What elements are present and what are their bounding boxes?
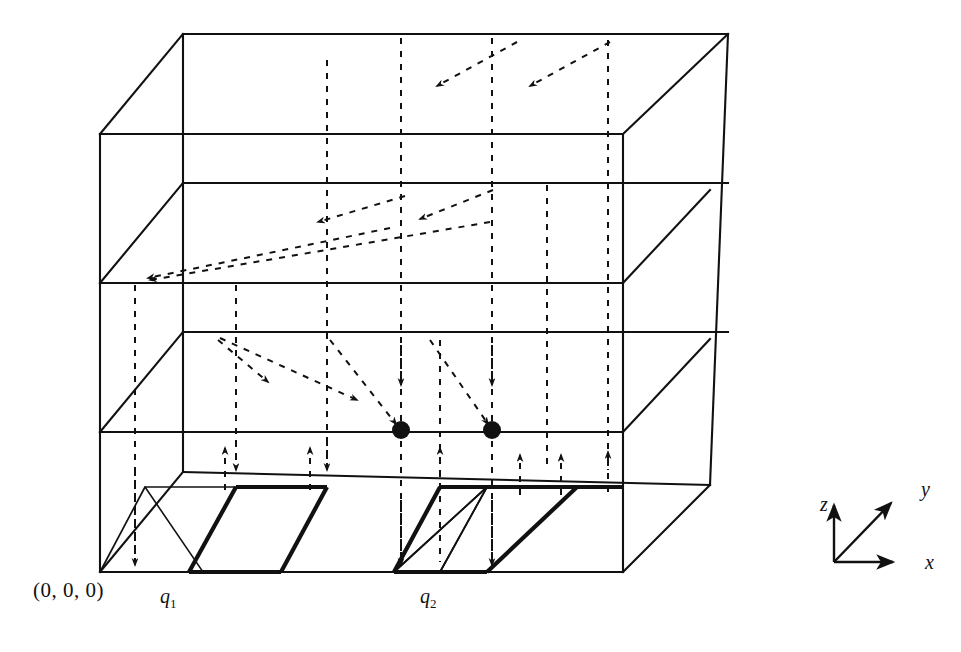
q2-diag-thin-4 <box>487 487 577 572</box>
marked-dots <box>392 421 501 439</box>
second-diag-arrow-1 <box>318 196 405 222</box>
cell-label-q1-sub: 1 <box>170 596 177 611</box>
layer-depth-left-1 <box>100 183 183 283</box>
axis-label-x: x <box>925 551 934 574</box>
cell-label-q2-text: q <box>420 585 430 607</box>
diagonal-arrows-second-layer <box>148 190 493 280</box>
third-diag-arrow-1 <box>218 340 268 382</box>
box-outline <box>100 34 728 572</box>
top-diag-arrow-1 <box>437 42 517 86</box>
depth-edge-bottom-right <box>623 485 710 572</box>
q2-diag-thin-5 <box>440 487 487 572</box>
axis-label-z: z <box>820 493 828 516</box>
dot-q2-target <box>483 421 501 439</box>
layer-depth-right-1 <box>623 190 710 283</box>
depth-edge-top-right <box>623 34 728 134</box>
dot-q1-target <box>392 421 410 439</box>
layer-dividers <box>100 183 728 485</box>
axis-y-arrow <box>834 503 891 562</box>
top-diag-arrow-2 <box>530 42 610 86</box>
second-diag-line-2 <box>150 222 490 280</box>
q1-right-bold <box>281 487 327 572</box>
third-diag-arrow-3 <box>330 340 396 424</box>
depth-edge-top-left <box>100 34 183 134</box>
origin-label: (0, 0, 0) <box>33 578 104 603</box>
bottom-back-edge <box>183 472 710 485</box>
axis-label-y: y <box>921 478 930 501</box>
second-diag-line-1 <box>148 228 390 278</box>
cell-label-q1-text: q <box>160 585 170 607</box>
back-right-vertical <box>710 34 728 485</box>
grid-diagram-svg <box>0 0 961 652</box>
second-diag-arrow-2 <box>420 190 493 219</box>
cell-label-q2: q2 <box>420 585 437 612</box>
q1-left-thin <box>100 487 145 572</box>
third-diag-arrow-2 <box>220 338 357 400</box>
layer-depth-right-2 <box>623 339 710 432</box>
diagonal-arrows-third-layer <box>218 338 488 424</box>
cell-label-q2-sub: 2 <box>430 596 437 611</box>
diagonal-arrows-top-layer <box>437 42 610 86</box>
front-face <box>100 134 623 572</box>
q1-left-bold <box>189 487 236 572</box>
third-diag-arrow-4 <box>430 340 488 424</box>
cell-label-q1: q1 <box>160 585 177 612</box>
figure-root: (0, 0, 0) q1 q2 z y x <box>0 0 961 652</box>
layer-depth-left-2 <box>100 332 183 432</box>
cell-q2 <box>394 487 623 572</box>
axis-legend <box>834 503 893 562</box>
